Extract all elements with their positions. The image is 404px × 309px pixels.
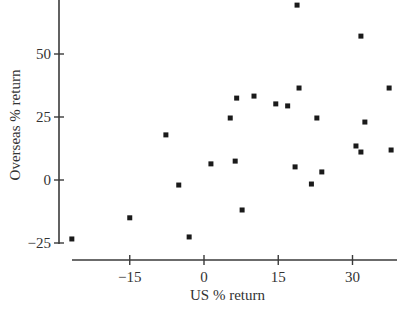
data-point-marker <box>314 116 319 121</box>
data-point-marker <box>362 120 367 125</box>
scatter-chart: −2502550 −1501530 US % return Overseas %… <box>0 0 404 309</box>
data-point-marker <box>297 86 302 91</box>
x-tick-label: 30 <box>345 269 360 285</box>
data-point-marker <box>234 96 239 101</box>
data-point-marker <box>319 169 324 174</box>
data-point-marker <box>387 86 392 91</box>
data-point-marker <box>233 159 238 164</box>
y-tick-label: −25 <box>28 235 51 251</box>
data-point-marker <box>293 164 298 169</box>
x-tick-label: 15 <box>271 269 286 285</box>
x-tick-label: 0 <box>200 269 208 285</box>
data-point-marker <box>251 94 256 99</box>
y-tick-label: 25 <box>36 109 51 125</box>
data-point-marker <box>285 103 290 108</box>
data-point-marker <box>187 234 192 239</box>
data-point-marker <box>273 101 278 106</box>
data-point-marker <box>358 34 363 39</box>
y-axis: −2502550 <box>28 0 64 251</box>
data-point-marker <box>358 150 363 155</box>
data-point-marker <box>295 3 300 8</box>
data-point-marker <box>309 182 314 187</box>
data-point-marker <box>163 132 168 137</box>
x-axis: −1501530 <box>72 255 397 285</box>
data-point-marker <box>208 161 213 166</box>
x-tick-label: −15 <box>118 269 141 285</box>
data-point-marker <box>353 143 358 148</box>
data-points <box>69 3 393 242</box>
x-axis-title: US % return <box>190 287 265 303</box>
y-tick-label: 0 <box>44 172 52 188</box>
data-point-marker <box>176 183 181 188</box>
y-axis-title: Overseas % return <box>7 69 23 180</box>
data-point-marker <box>240 207 245 212</box>
data-point-marker <box>69 236 74 241</box>
y-tick-label: 50 <box>36 46 51 62</box>
data-point-marker <box>127 215 132 220</box>
data-point-marker <box>228 116 233 121</box>
data-point-marker <box>389 148 394 153</box>
